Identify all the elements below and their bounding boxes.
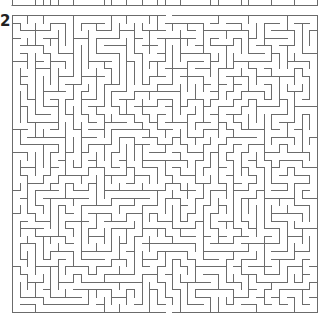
- maze-grid: [0, 0, 327, 324]
